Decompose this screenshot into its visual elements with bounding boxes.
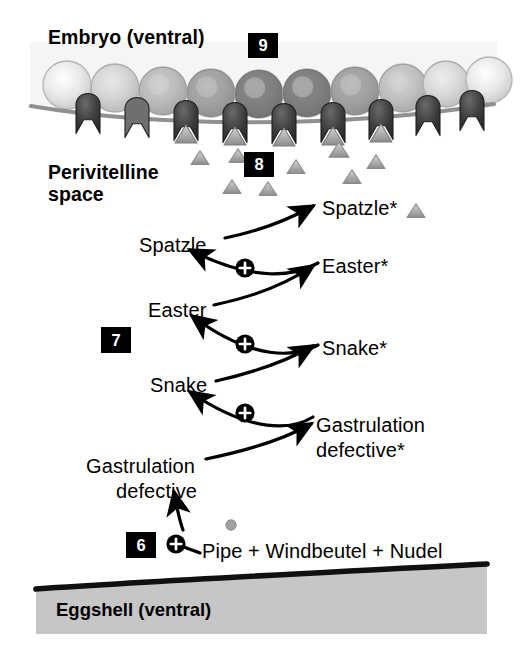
- cascade-label-snake: Snake: [150, 374, 207, 396]
- plus-pipe-to-gd: [166, 534, 185, 553]
- perivitelline-label-line1: Perivitelline: [48, 162, 159, 184]
- badge-step-9: 9: [248, 33, 278, 58]
- toll-receptor: [460, 90, 484, 130]
- free-spatzle-ligand: [343, 170, 361, 184]
- cascade-label-snake-active: Snake*: [322, 337, 387, 359]
- embryo-label: Embryo (ventral): [48, 27, 205, 49]
- figure-canvas: Embryo (ventral) Perivitelline space Egg…: [0, 0, 521, 665]
- toll-receptor-body: [76, 93, 100, 133]
- badge-step-6: 6: [126, 532, 156, 558]
- badge-step-7: 7: [101, 327, 131, 353]
- toll-receptor: [125, 97, 149, 137]
- toll-receptor: [174, 100, 198, 143]
- badge-step-8: 8: [244, 152, 274, 177]
- free-spatzle-ligand: [287, 160, 305, 174]
- embryo-cell-highlight: [100, 71, 121, 92]
- cascade-label-easter: Easter: [148, 299, 206, 321]
- toll-receptor: [369, 99, 393, 142]
- toll-receptor-body: [125, 97, 149, 137]
- embryo-cell-highlight: [196, 76, 217, 97]
- cascade-label-easter-active: Easter*: [322, 255, 388, 277]
- perivitelline-label-line2: space: [48, 184, 104, 206]
- cascade-label-spatzle-active: Spatzle*: [322, 197, 397, 219]
- cascade-label-pipe-line: Pipe + Windbeutel + Nudel: [202, 540, 442, 562]
- free-spatzle-ligand: [407, 204, 425, 218]
- toll-receptor-body: [460, 90, 484, 130]
- pipe-dot: [226, 520, 236, 530]
- embryo-cell-highlight: [388, 71, 409, 92]
- diagram-scene: [0, 0, 521, 665]
- free-spatzle-ligand: [367, 155, 385, 169]
- eggshell-label: Eggshell (ventral): [56, 600, 211, 621]
- cascade-label-gd-l1: Gastrulation: [86, 455, 195, 477]
- cascade-label-gd-active-l1: Gastrulation: [316, 414, 425, 436]
- free-spatzle-ligand: [191, 151, 209, 165]
- cascade-label-gd-l2: defective: [116, 480, 197, 502]
- toll-receptor: [321, 102, 345, 145]
- cascade-label-gd-active-l2: defective*: [316, 439, 405, 461]
- plus-easter-to-spatzle: [235, 258, 254, 277]
- toll-receptor: [416, 95, 440, 135]
- embryo-cell-highlight: [432, 68, 452, 88]
- toll-receptor-body: [416, 95, 440, 135]
- free-spatzle-ligand: [259, 182, 277, 196]
- toll-receptor: [223, 102, 247, 145]
- toll-receptor: [76, 93, 100, 133]
- embryo-cell-highlight: [292, 76, 313, 97]
- embryo-cell-highlight: [244, 77, 265, 98]
- embryo-cell-highlight: [340, 74, 361, 95]
- toll-receptor: [272, 103, 296, 146]
- embryo-cell-highlight: [148, 74, 169, 95]
- cascade-label-spatzle: Spatzle: [139, 234, 206, 256]
- plus-gd-to-snake: [235, 403, 254, 422]
- free-spatzle-ligand: [223, 180, 241, 194]
- plus-snake-to-easter: [235, 334, 254, 353]
